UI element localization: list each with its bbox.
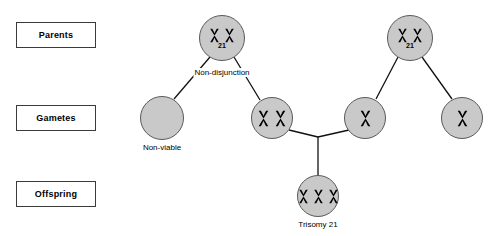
chromosome-icon: [395, 28, 410, 43]
chromosome-icon: [410, 28, 425, 43]
chromosome-icon: [311, 189, 326, 204]
caption-trisomy-caption: Trisomy 21: [298, 220, 337, 229]
cell-gamete-normal-outer: [441, 97, 483, 139]
edge-parent-right-to-outer-gamete: [422, 57, 452, 99]
chromosome-icon: [207, 28, 222, 43]
chromosome-number-label: 21: [406, 42, 414, 49]
edge-inner-gamete-to-junction: [318, 130, 349, 137]
edge-disomic-to-junction: [289, 130, 318, 137]
annotation-non-disjunction: Non-disjunction: [193, 68, 250, 77]
cell-offspring-trisomy: [297, 175, 339, 217]
chromosome-icon: [454, 110, 471, 127]
chromosome-group: [395, 28, 425, 43]
chromosome-icon: [255, 110, 272, 127]
caption-non-viable-caption: Non-viable: [143, 143, 181, 152]
chromosome-icon: [272, 110, 289, 127]
chromosome-group: [454, 110, 471, 127]
chromosome-number-label: 21: [218, 42, 226, 49]
cell-gamete-disomic: [251, 97, 293, 139]
chromosome-icon: [222, 28, 237, 43]
cell-gamete-non-viable: [140, 96, 184, 140]
chromosome-group: [357, 110, 374, 127]
chromosome-icon: [296, 189, 311, 204]
cell-parent-left: 21: [199, 15, 245, 61]
chromosome-icon: [357, 110, 374, 127]
cell-gamete-normal-inner: [344, 97, 386, 139]
chromosome-group: [207, 28, 237, 43]
chromosome-group: [255, 110, 289, 127]
edge-parent-left-to-non-viable: [174, 57, 210, 99]
cell-parent-right: 21: [387, 15, 433, 61]
edge-parent-right-to-inner-gamete: [376, 57, 398, 99]
trisomy-21-diagram: ParentsGametesOffspring 2121 Non-viableT…: [0, 0, 500, 236]
chromosome-group: [296, 189, 341, 204]
chromosome-icon: [326, 189, 341, 204]
edge-parent-left-to-disomic: [234, 57, 260, 100]
